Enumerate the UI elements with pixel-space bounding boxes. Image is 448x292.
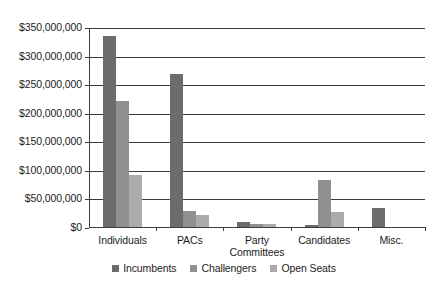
bar-incumbents[interactable] [305, 225, 318, 227]
y-axis-tick-label: $250,000,000 [19, 79, 82, 90]
y-axis-tick-label: $0 [71, 222, 82, 233]
x-axis-tick-label: Misc. [358, 234, 425, 246]
bar-open-seats[interactable] [263, 224, 276, 227]
bar-group-bars [223, 28, 290, 227]
x-axis-tick-mark [223, 227, 224, 231]
legend-item-openseats[interactable]: Open Seats [270, 262, 335, 274]
x-axis-tick-mark [156, 227, 157, 231]
bar-group [89, 28, 156, 227]
chart-legend: IncumbentsChallengersOpen Seats [0, 262, 448, 274]
y-axis-tick-mark [85, 228, 89, 229]
legend-label: Open Seats [281, 262, 335, 274]
bar-challengers[interactable] [116, 101, 129, 227]
legend-swatch-icon [270, 265, 277, 272]
bar-group-bars [156, 28, 223, 227]
x-axis-tick-mark [425, 227, 426, 231]
x-axis-line [89, 227, 425, 228]
legend-label: Challengers [201, 262, 256, 274]
bar-challengers[interactable] [183, 211, 196, 227]
x-axis-tick-label: Party Committees [223, 234, 290, 258]
bar-open-seats[interactable] [331, 212, 344, 227]
bar-challengers[interactable] [318, 180, 331, 227]
bar-chart: $350,000,000$300,000,000$250,000,000$200… [0, 0, 448, 292]
x-axis-tick-mark [358, 227, 359, 231]
bar-group [291, 28, 358, 227]
y-axis-tick-label: $50,000,000 [25, 193, 82, 204]
bar-incumbents[interactable] [170, 74, 183, 227]
x-axis-tick-label: Candidates [291, 234, 358, 246]
bar-open-seats[interactable] [196, 215, 209, 227]
y-axis-tick-label: $100,000,000 [19, 165, 82, 176]
y-axis-tick-label: $200,000,000 [19, 108, 82, 119]
legend-item-incumbents[interactable]: Incumbents [112, 262, 176, 274]
legend-swatch-icon [112, 265, 119, 272]
x-axis-tick-label: PACs [156, 234, 223, 246]
bar-group-bars [358, 28, 425, 227]
bar-open-seats[interactable] [129, 175, 142, 227]
legend-label: Incumbents [123, 262, 176, 274]
bar-group [358, 28, 425, 227]
x-axis-tick-label: Individuals [89, 234, 156, 246]
bar-incumbents[interactable] [237, 222, 250, 227]
plot-area [89, 28, 425, 228]
bar-incumbents[interactable] [103, 36, 116, 227]
legend-swatch-icon [190, 265, 197, 272]
bar-incumbents[interactable] [372, 208, 385, 227]
legend-item-challengers[interactable]: Challengers [190, 262, 256, 274]
y-axis-tick-label: $300,000,000 [19, 51, 82, 62]
bar-group-bars [291, 28, 358, 227]
bar-challengers[interactable] [250, 224, 263, 227]
bar-group [223, 28, 290, 227]
x-axis-tick-mark [291, 227, 292, 231]
y-axis-tick-label: $150,000,000 [19, 136, 82, 147]
bar-group [156, 28, 223, 227]
bar-group-bars [89, 28, 156, 227]
y-axis-tick-label: $350,000,000 [19, 22, 82, 33]
